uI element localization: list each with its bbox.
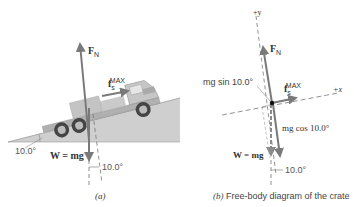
normal-force-label-b: FN — [270, 44, 281, 56]
angle-label-b: 10.0° — [285, 166, 306, 175]
incline-angle-label: 10.0° — [15, 147, 36, 156]
leader-line — [257, 86, 270, 101]
weight-angle-label-a: 10.0° — [102, 163, 123, 172]
x-axis — [222, 93, 338, 115]
y-axis-label: +y — [253, 9, 262, 17]
friction-arrow-a — [102, 91, 128, 96]
caption-a: (a) — [95, 192, 106, 201]
normal-force-label-a: FN — [88, 46, 99, 58]
weight-label-b: W = mg — [233, 151, 263, 160]
perpendicular-component-arrow — [273, 104, 280, 156]
origin-point — [270, 101, 274, 105]
parallel-component-label: mg sin 10.0° — [203, 78, 253, 87]
diagram-canvas — [0, 0, 354, 207]
friction-label-b: fsMAX — [284, 82, 306, 96]
caption-b: (b) Free-body diagram of the crate — [213, 192, 350, 201]
weight-label-a: W = mg — [50, 151, 84, 161]
x-axis-label: +x — [333, 86, 342, 94]
perpendicular-component-label: mg cos 10.0° — [282, 124, 329, 133]
friction-arrow-b — [272, 98, 296, 103]
friction-label-a: fsMAX — [108, 77, 130, 91]
